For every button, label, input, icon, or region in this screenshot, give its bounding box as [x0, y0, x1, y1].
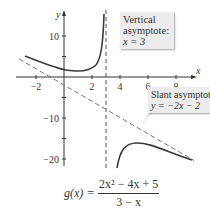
slant-asymptote-callout: Slant asymptote: y = −2x − 2 [148, 87, 210, 113]
y-axis-label: y [55, 9, 61, 20]
callout-equation: x = 3 [123, 36, 171, 47]
curve-right-branch [117, 143, 192, 168]
formula-equals: = [87, 186, 94, 201]
function-formula: g(x) = 2x² − 4x + 5 3 − x [64, 178, 159, 208]
x-tick-label: −2 [31, 81, 42, 92]
callout-text: asymptote: [123, 25, 171, 36]
callout-equation: y = −2x − 2 [151, 100, 207, 111]
y-axis-arrow-icon [62, 10, 66, 16]
formula-numerator: 2x² − 4x + 5 [98, 177, 159, 194]
callout-text: Vertical [123, 14, 171, 25]
x-axis-label: x [195, 65, 201, 76]
y-tick-label: −10 [43, 113, 59, 124]
x-tick-label: 4 [118, 81, 123, 92]
callout-text: Slant asymptote: [151, 89, 207, 100]
formula-denominator: 3 − x [116, 194, 141, 210]
vertical-asymptote-callout: Vertical asymptote: x = 3 [120, 12, 174, 49]
formula-lhs: g(x) [64, 186, 83, 201]
y-tick-label: −20 [43, 154, 59, 165]
x-tick-label: 2 [90, 81, 95, 92]
y-tick-label: 10 [49, 31, 59, 42]
formula-fraction: 2x² − 4x + 5 3 − x [98, 177, 159, 210]
